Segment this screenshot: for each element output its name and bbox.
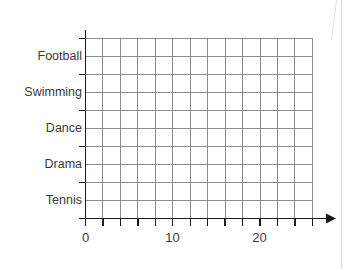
y-axis-label-tennis: Tennis: [46, 193, 82, 207]
x-axis-label-0: 0: [71, 230, 100, 245]
x-axis-ticks: [86, 219, 313, 227]
bar-chart-figure: Football Swimming Dance Drama Tennis 0 1…: [0, 0, 345, 269]
y-axis-label-swimming: Swimming: [24, 85, 82, 99]
y-axis-category-labels: Football Swimming Dance Drama Tennis: [0, 0, 82, 269]
y-axis-label-drama: Drama: [44, 157, 82, 171]
page-edge-artifact: [341, 0, 342, 269]
x-axis-arrow-icon: [326, 214, 336, 224]
y-axis-label-football: Football: [38, 49, 82, 63]
x-axis-label-20: 20: [245, 230, 274, 245]
x-axis-label-10: 10: [158, 230, 187, 245]
y-axis-label-dance: Dance: [46, 121, 82, 135]
grid-horizontal-lines: [85, 39, 312, 219]
